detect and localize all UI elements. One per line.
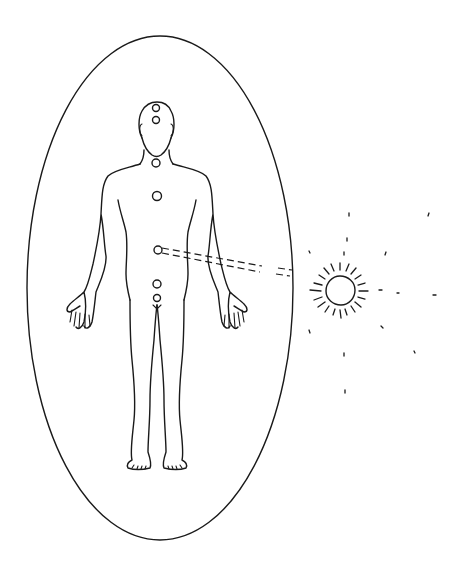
chakra-sacral: [153, 280, 161, 288]
left-leg: [127, 300, 157, 470]
left-toes: [132, 465, 146, 469]
chakra-solar-plexus: [154, 246, 162, 254]
neck-left: [140, 150, 144, 164]
chakra-third-eye: [153, 117, 160, 124]
sun-disc: [326, 276, 355, 305]
left-arm: [67, 164, 140, 328]
chakra-crown: [153, 105, 160, 112]
chakra-heart: [153, 192, 162, 201]
chakra-root: [154, 295, 161, 302]
human-figure: [67, 102, 247, 470]
left-hand-fingers: [70, 310, 90, 328]
sun: [309, 213, 436, 393]
torso-left: [118, 200, 130, 300]
chakra-throat: [152, 159, 160, 167]
chakra-points: [152, 105, 162, 310]
right-leg: [157, 300, 187, 470]
right-toes: [168, 465, 182, 469]
sun-scattered-marks: [309, 213, 436, 393]
sun-rays: [310, 263, 368, 318]
torso-right: [184, 200, 196, 300]
jaw-neck: [142, 138, 171, 157]
head-outline: [139, 102, 174, 138]
neck-right: [169, 150, 173, 164]
aura-ellipse: [27, 36, 293, 540]
diagram-canvas: [0, 0, 458, 571]
energy-connection: [162, 248, 292, 276]
right-hand-fingers: [224, 310, 244, 328]
